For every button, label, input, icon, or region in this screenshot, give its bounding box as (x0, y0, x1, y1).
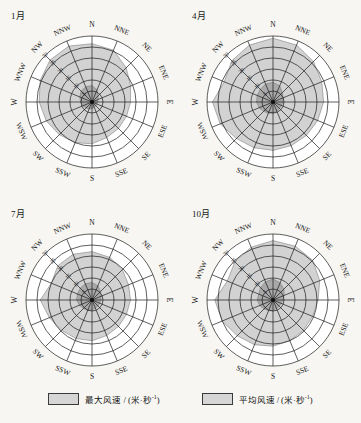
direction-label-wnw: WNW (12, 259, 28, 281)
legend-label-max: 最大风速 / (米·秒-1) (85, 393, 159, 405)
direction-label-wsw: WSW (195, 121, 211, 142)
wind-rose-figure: 1月 NNNENEENEEESESESSESSSWSWWSWWWNWNWNNW5… (0, 0, 361, 423)
direction-label-n: N (89, 20, 95, 29)
direction-label-ssw: SSW (54, 165, 73, 180)
direction-label-ene: ENE (157, 262, 171, 279)
direction-label-nnw: NNW (233, 22, 254, 38)
legend-item-mean-wind-speed: 平均风速 / (米·秒-1) (202, 393, 313, 405)
direction-label-nne: NNE (113, 23, 131, 37)
direction-label-ssw: SSW (54, 363, 73, 378)
direction-label-nnw: NNW (52, 220, 73, 236)
direction-label-wsw: WSW (14, 319, 30, 340)
wind-rose-panel: 7月 NNNENEENEEESESESSESSSWSWWSWWWNWNWNNW5… (0, 200, 180, 396)
direction-label-n: N (89, 218, 95, 227)
direction-label-s: S (90, 174, 94, 183)
legend: 最大风速 / (米·秒-1) 平均风速 / (米·秒-1) (0, 388, 361, 410)
direction-label-w: W (191, 98, 200, 106)
direction-label-ese: ESE (156, 321, 170, 337)
direction-label-e: E (165, 100, 174, 105)
direction-label-nnw: NNW (233, 220, 254, 236)
direction-label-se: SE (321, 149, 334, 162)
direction-label-sw: SW (31, 347, 46, 362)
direction-label-sw: SW (212, 347, 227, 362)
wind-rose-svg: NNNENEENEEESESESSESSSWSWWSWWWNWNWNNW5101… (181, 200, 361, 396)
direction-label-se: SE (140, 347, 153, 360)
wind-rose-panel: 10月 NNNENEENEEESESESSESSSWSWWSWWWNWNWNNW… (181, 200, 361, 396)
wind-rose-panel: 4月 NNNENEENEEESESESSESSSWSWWSWWWNWNWNNW5… (181, 2, 361, 198)
direction-label-sw: SW (212, 149, 227, 164)
direction-label-wnw: WNW (193, 61, 209, 83)
direction-label-sse: SSE (113, 364, 129, 377)
direction-label-wnw: WNW (12, 61, 28, 83)
direction-label-s: S (271, 372, 275, 381)
direction-label-se: SE (321, 347, 334, 360)
direction-label-ne: NE (321, 40, 335, 54)
direction-label-se: SE (140, 149, 153, 162)
direction-label-wsw: WSW (14, 121, 30, 142)
direction-label-n: N (270, 218, 276, 227)
legend-item-max-wind-speed: 最大风速 / (米·秒-1) (48, 393, 159, 405)
direction-label-sse: SSE (113, 166, 129, 179)
direction-label-w: W (10, 98, 19, 106)
direction-label-ssw: SSW (235, 363, 254, 378)
direction-label-ne: NE (140, 40, 154, 54)
direction-label-ene: ENE (157, 64, 171, 81)
direction-label-ese: ESE (337, 123, 351, 139)
direction-label-e: E (165, 298, 174, 303)
wind-rose-svg: NNNENEENEEESESESSESSSWSWWSWWWNWNWNNW5101… (0, 200, 180, 396)
direction-label-sse: SSE (294, 166, 310, 179)
direction-label-ssw: SSW (235, 165, 254, 180)
direction-label-ese: ESE (337, 321, 351, 337)
direction-label-wnw: WNW (193, 259, 209, 281)
direction-label-s: S (271, 174, 275, 183)
legend-swatch-max-icon (48, 393, 79, 405)
direction-label-e: E (346, 298, 355, 303)
direction-label-wsw: WSW (195, 319, 211, 340)
direction-label-ene: ENE (338, 64, 352, 81)
direction-label-nnw: NNW (52, 22, 73, 38)
direction-label-w: W (10, 296, 19, 304)
direction-label-w: W (191, 296, 200, 304)
direction-label-n: N (270, 20, 276, 29)
wind-rose-svg: NNNENEENEEESESESSESSSWSWWSWWWNWNWNNW5101… (181, 2, 361, 198)
wind-rose-panel: 1月 NNNENEENEEESESESSESSSWSWWSWWWNWNWNNW5… (0, 2, 180, 198)
direction-label-s: S (90, 372, 94, 381)
direction-label-ene: ENE (338, 262, 352, 279)
direction-label-sw: SW (31, 149, 46, 164)
legend-swatch-mean-icon (202, 393, 233, 405)
direction-label-ne: NE (140, 238, 154, 252)
direction-label-ese: ESE (156, 123, 170, 139)
direction-label-nne: NNE (294, 221, 312, 235)
direction-label-nne: NNE (294, 23, 312, 37)
direction-label-nne: NNE (113, 221, 131, 235)
legend-label-mean: 平均风速 / (米·秒-1) (239, 393, 313, 405)
direction-label-e: E (346, 100, 355, 105)
direction-label-ne: NE (321, 238, 335, 252)
wind-rose-svg: NNNENEENEEESESESSESSSWSWWSWWWNWNWNNW5101… (0, 2, 180, 198)
direction-label-sse: SSE (294, 364, 310, 377)
